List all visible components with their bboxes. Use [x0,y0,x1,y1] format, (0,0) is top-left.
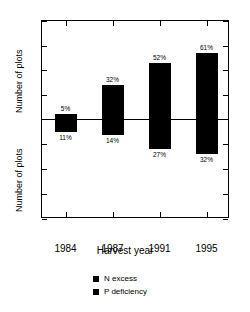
y-tick-down-30-right [223,194,228,195]
legend-label: N excess [104,274,137,283]
value-label-n-excess-1987: 32% [93,76,133,83]
x-tick-1995-bottom [207,212,208,217]
value-label-n-excess-1991: 52% [140,54,180,61]
legend-item-n-excess: N excess [93,272,147,285]
legend-swatch-icon [93,289,99,295]
y-axis-label-upper: Number of plots [14,49,24,113]
x-tick-1984-top [66,21,67,26]
legend-label: P deficiency [104,287,147,296]
x-tick-1995-top [207,21,208,26]
y-tick-up-20-right [223,70,228,71]
y-tick-down-40-left [42,219,47,220]
y-tick-down-10-left [42,144,47,145]
x-tick-1987-top [113,21,114,26]
chart-figure: Number of plots Number of plots 01020304… [0,0,250,312]
plot-area: 01020304010203040 1984198719911995 5%11%… [41,20,229,218]
y-tick-up-10-left [42,95,47,96]
value-label-p-deficiency-1984: 11% [46,134,86,141]
value-label-p-deficiency-1995: 32% [187,156,227,163]
x-tick-1991-top [160,21,161,26]
bar-n-excess-1987 [102,85,124,119]
bar-p-deficiency-1995 [196,119,218,154]
value-label-n-excess-1995: 61% [187,44,227,51]
value-label-p-deficiency-1987: 14% [93,137,133,144]
y-axis-label-lower: Number of plots [14,148,24,212]
y-tick-down-30-left [42,194,47,195]
chart-legend: N excessP deficiency [93,272,147,298]
value-label-n-excess-1984: 5% [46,105,86,112]
y-tick-up-20-left [42,70,47,71]
y-tick-down-40-right [223,219,228,220]
value-label-p-deficiency-1991: 27% [140,151,180,158]
bar-n-excess-1995 [196,53,218,119]
legend-item-p-deficiency: P deficiency [93,285,147,298]
y-tick-up-30-left [42,46,47,47]
x-tick-1991-bottom [160,212,161,217]
x-tick-1987-bottom [113,212,114,217]
y-tick-down-10-right [223,144,228,145]
y-tick-up-40-right [223,21,228,22]
y-tick-up-0-left [42,119,47,120]
y-tick-up-10-right [223,95,228,96]
legend-swatch-icon [93,276,99,282]
x-axis-label: Harvest year [0,245,250,256]
bar-p-deficiency-1987 [102,119,124,135]
x-tick-1984-bottom [66,212,67,217]
bar-p-deficiency-1984 [55,119,77,132]
bar-n-excess-1991 [149,63,171,119]
y-tick-down-20-right [223,169,228,170]
y-tick-down-20-left [42,169,47,170]
y-tick-up-40-left [42,21,47,22]
y-tick-up-0-right [223,119,228,120]
bar-p-deficiency-1991 [149,119,171,149]
